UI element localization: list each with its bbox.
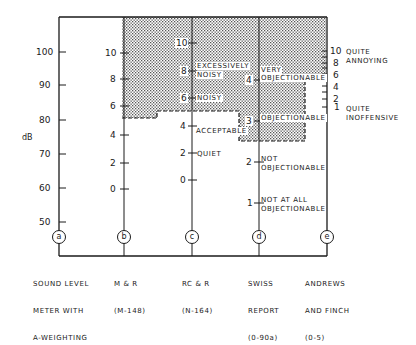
- axis-c-tick: 10: [175, 38, 188, 48]
- label-excessively: EXCESSIVELY: [196, 62, 250, 70]
- axis-d-tick: 4: [245, 75, 253, 85]
- label-not: NOT: [261, 155, 278, 163]
- label-not-at-all: NOT AT ALL: [261, 196, 308, 204]
- axis-d-tick: 2: [246, 157, 252, 167]
- axis-b-tick: 8: [110, 74, 116, 84]
- axis-a-tick: 70: [39, 149, 50, 159]
- label-very: VERY: [260, 66, 282, 74]
- axis-a-tick: 80: [39, 115, 50, 125]
- axis-c-marker: c: [185, 230, 199, 244]
- label-very-objectionable: OBJECTIONABLE: [260, 74, 327, 82]
- axis-b-tick: 0: [110, 184, 116, 194]
- axis-c-tick: 0: [180, 175, 186, 185]
- axis-e-tick: 8: [333, 58, 339, 68]
- label-quite-inoffensive-1: QUITE: [346, 105, 370, 113]
- axis-e-tick: 10: [330, 46, 341, 56]
- axis-b-tick: 10: [105, 48, 116, 58]
- axis-d-marker: d: [252, 230, 266, 244]
- axis-a-tick: 100: [36, 47, 53, 57]
- axis-a-tick: 90: [39, 80, 50, 90]
- axis-b-tick: 2: [110, 158, 116, 168]
- axis-a-marker: a: [52, 230, 66, 244]
- label-quite-annoying-2: ANNOYING: [346, 57, 388, 65]
- label-acceptable: ACCEPTABLE: [195, 127, 248, 135]
- axis-e-tick: 1: [334, 102, 340, 112]
- axis-e-marker: e: [320, 230, 334, 244]
- axis-e-name: ANDREWS AND FINCH (0-5): [305, 262, 350, 345]
- axis-a-tick: 60: [39, 183, 50, 193]
- axis-c-tick: 4: [180, 121, 186, 131]
- label-excessively-noisy: NOISY: [196, 71, 223, 79]
- axis-c-tick: 2: [180, 148, 186, 158]
- axis-c-tick: 6: [180, 93, 188, 103]
- axis-b-marker: b: [117, 230, 131, 244]
- axis-a-name: SOUND LEVEL METER WITH A-WEIGHTING: [33, 262, 89, 345]
- axis-e-tick: 4: [333, 82, 339, 92]
- axis-b-name: M & R (M-148): [114, 262, 146, 325]
- label-not-objectionable: OBJECTIONABLE: [261, 164, 326, 172]
- db-unit-label: dB: [22, 133, 33, 143]
- axis-a-tick: 50: [39, 217, 50, 227]
- axis-d-name: SWISS REPORT (0-90a): [248, 262, 279, 345]
- label-quite-inoffensive-2: INOFFENSIVE: [346, 114, 399, 122]
- axis-d-tick: 3: [245, 116, 253, 126]
- axis-b-tick: 6: [110, 101, 116, 111]
- axis-d-tick: 1: [247, 198, 253, 208]
- label-not-at-all-objectionable: OBJECTIONABLE: [261, 205, 326, 213]
- label-noisy: NOISY: [196, 94, 223, 102]
- label-quite-annoying-1: QUITE: [346, 48, 370, 56]
- axis-c-tick: 8: [180, 66, 188, 76]
- axis-b-tick: 4: [110, 130, 116, 140]
- axis-c-name: RC & R (N-164): [182, 262, 213, 325]
- label-objectionable: OBJECTIONABLE: [260, 114, 327, 122]
- label-quiet: QUIET: [197, 150, 221, 158]
- axis-e-tick: 6: [333, 70, 339, 80]
